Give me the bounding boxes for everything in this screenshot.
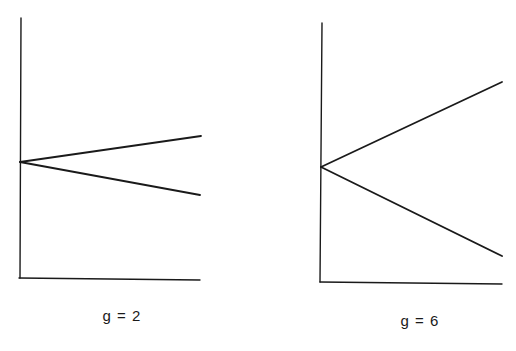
y-axis [320,23,322,282]
x-axis [320,282,502,284]
lower-line [321,167,502,256]
panel-g2 [19,18,201,280]
panel-g6 [320,23,502,284]
upper-line [321,82,502,167]
lower-line [20,162,200,195]
panel-label-g2: g = 2 [103,307,142,324]
panel-label-g6: g = 6 [401,312,440,329]
y-axis [20,18,21,278]
x-axis [19,278,200,280]
upper-line [20,136,201,162]
diagram-canvas [0,0,516,351]
